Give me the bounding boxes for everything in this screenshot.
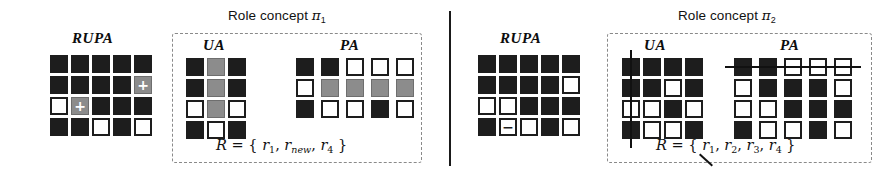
pa-1-cell: [321, 79, 339, 97]
formula-1-item-sub: 1: [269, 144, 275, 155]
rupa-1-cell: [92, 76, 110, 94]
formula-2-item: r2: [724, 137, 737, 153]
rupa-2-cell: [478, 55, 496, 73]
role-set-formula-1: R = { r1, rnew, r4 }: [216, 137, 347, 153]
pa-1-cell: [346, 100, 364, 118]
pi-subscript: 1: [321, 15, 326, 25]
rupa-1-cell: [113, 76, 131, 94]
pa-2-cell: [834, 121, 852, 139]
rupa-1-cell: [92, 118, 110, 136]
pa-1-cell: [296, 100, 314, 118]
pa-matrix-1: [296, 58, 418, 118]
rupa-1-cell: [134, 55, 152, 73]
formula-2-item-sub: 3: [753, 144, 759, 155]
rupa-matrix-2: −: [478, 55, 580, 136]
rupa-1-cell: [71, 55, 89, 73]
pa-2-cell: [784, 100, 802, 118]
formula-1-sep: ,: [311, 137, 320, 153]
ua-1-cell: [186, 79, 204, 97]
rupa-1-cell: [50, 118, 68, 136]
ua-2-cell: [664, 100, 682, 118]
pa-2-cell: [784, 79, 802, 97]
rupa-2-cell: [520, 97, 538, 115]
rupa-2-cell: [499, 97, 517, 115]
pa-1-cell: [371, 100, 389, 118]
pi-symbol: π: [762, 7, 771, 23]
pa-2-cell: [734, 100, 752, 118]
formula-1-lhs: R: [216, 137, 227, 153]
rupa-2-cell: [478, 97, 496, 115]
panel-2-title: Role concept π2: [678, 7, 776, 23]
ua-2-cell: [643, 79, 661, 97]
formula-2-item: r4: [769, 137, 782, 153]
rupa-2-cell: [562, 76, 580, 94]
rupa-1-cell: +: [71, 97, 89, 115]
rupa-2-cell: [541, 76, 559, 94]
rupa-1-cell: [134, 118, 152, 136]
formula-2-item-sub: 1: [709, 144, 715, 155]
rupa-1-cell: [92, 55, 110, 73]
pa-1-cell: [371, 79, 389, 97]
rupa-2-cell: −: [499, 118, 517, 136]
rupa-1-cell: [50, 97, 68, 115]
ua-1-cell: [228, 58, 246, 76]
rupa-2-cell: [541, 55, 559, 73]
pa-1-cell: [396, 100, 414, 118]
ua-2-cell: [664, 58, 682, 76]
rupa-1-cell: [113, 97, 131, 115]
panel-1-title: Role concept π1: [228, 7, 326, 23]
ua-1-cell: [207, 100, 225, 118]
rupa-1-cell: [71, 118, 89, 136]
pa-1-cell: [296, 79, 314, 97]
rupa-1-cell: [92, 97, 110, 115]
rupa-label-1: RUPA: [72, 30, 113, 47]
pi-subscript: 2: [771, 15, 776, 25]
ua-2-cell: [685, 79, 703, 97]
rupa-matrix-1: ++: [50, 55, 152, 136]
rupa-2-cell: [499, 55, 517, 73]
panel-1-title-text: Role concept: [228, 8, 308, 23]
ua-1-cell: [207, 58, 225, 76]
rupa-2-cell: [562, 118, 580, 136]
pa-1-cell: [346, 79, 364, 97]
pa-strike-line: [725, 66, 861, 68]
rupa-2-cell: [562, 97, 580, 115]
ua-matrix-1: [186, 58, 246, 139]
rupa-2-cell: [478, 118, 496, 136]
ua-1-cell: [186, 58, 204, 76]
ua-1-cell: [228, 79, 246, 97]
rupa-2-cell: [541, 118, 559, 136]
pi-symbol: π: [312, 7, 321, 23]
ua-2-cell: [685, 58, 703, 76]
formula-1-item: rnew: [284, 137, 311, 153]
pa-1-cell: [296, 58, 314, 76]
formula-2-item-base: r: [702, 137, 709, 153]
rupa-2-cell: [520, 55, 538, 73]
formula-2-equals: =: [667, 137, 688, 153]
pa-2-cell: [734, 79, 752, 97]
formula-2-close-brace: }: [782, 137, 796, 153]
rupa-2-cell: [520, 76, 538, 94]
formula-2-item: r1: [702, 137, 715, 153]
ua-1-cell: [228, 100, 246, 118]
pa-label-2: PA: [780, 37, 799, 54]
role-set-formula-2: R = { r1, r2, r3, r4 }: [656, 137, 796, 153]
formula-2-sep: ,: [737, 137, 746, 153]
formula-2-lhs: R: [656, 137, 667, 153]
pa-2-cell: [759, 100, 777, 118]
role-concept-panel-1: Role concept π1 RUPA ++ UA PA R = { r1, …: [0, 0, 450, 176]
pa-1-cell: [371, 58, 389, 76]
pa-2-cell: [834, 100, 852, 118]
pa-matrix-2: [734, 58, 856, 139]
plus-icon: +: [137, 78, 149, 92]
rupa-1-cell: +: [134, 76, 152, 94]
pa-label-1: PA: [340, 37, 359, 54]
pa-1-cell: [396, 79, 414, 97]
ua-1-cell: [186, 121, 204, 139]
formula-1-item: r4: [320, 137, 333, 153]
pa-2-cell: [759, 79, 777, 97]
ua-matrix-2: [622, 58, 703, 139]
rupa-1-cell: [50, 76, 68, 94]
rupa-2-cell: [562, 55, 580, 73]
formula-2-open-brace: {: [688, 137, 702, 153]
